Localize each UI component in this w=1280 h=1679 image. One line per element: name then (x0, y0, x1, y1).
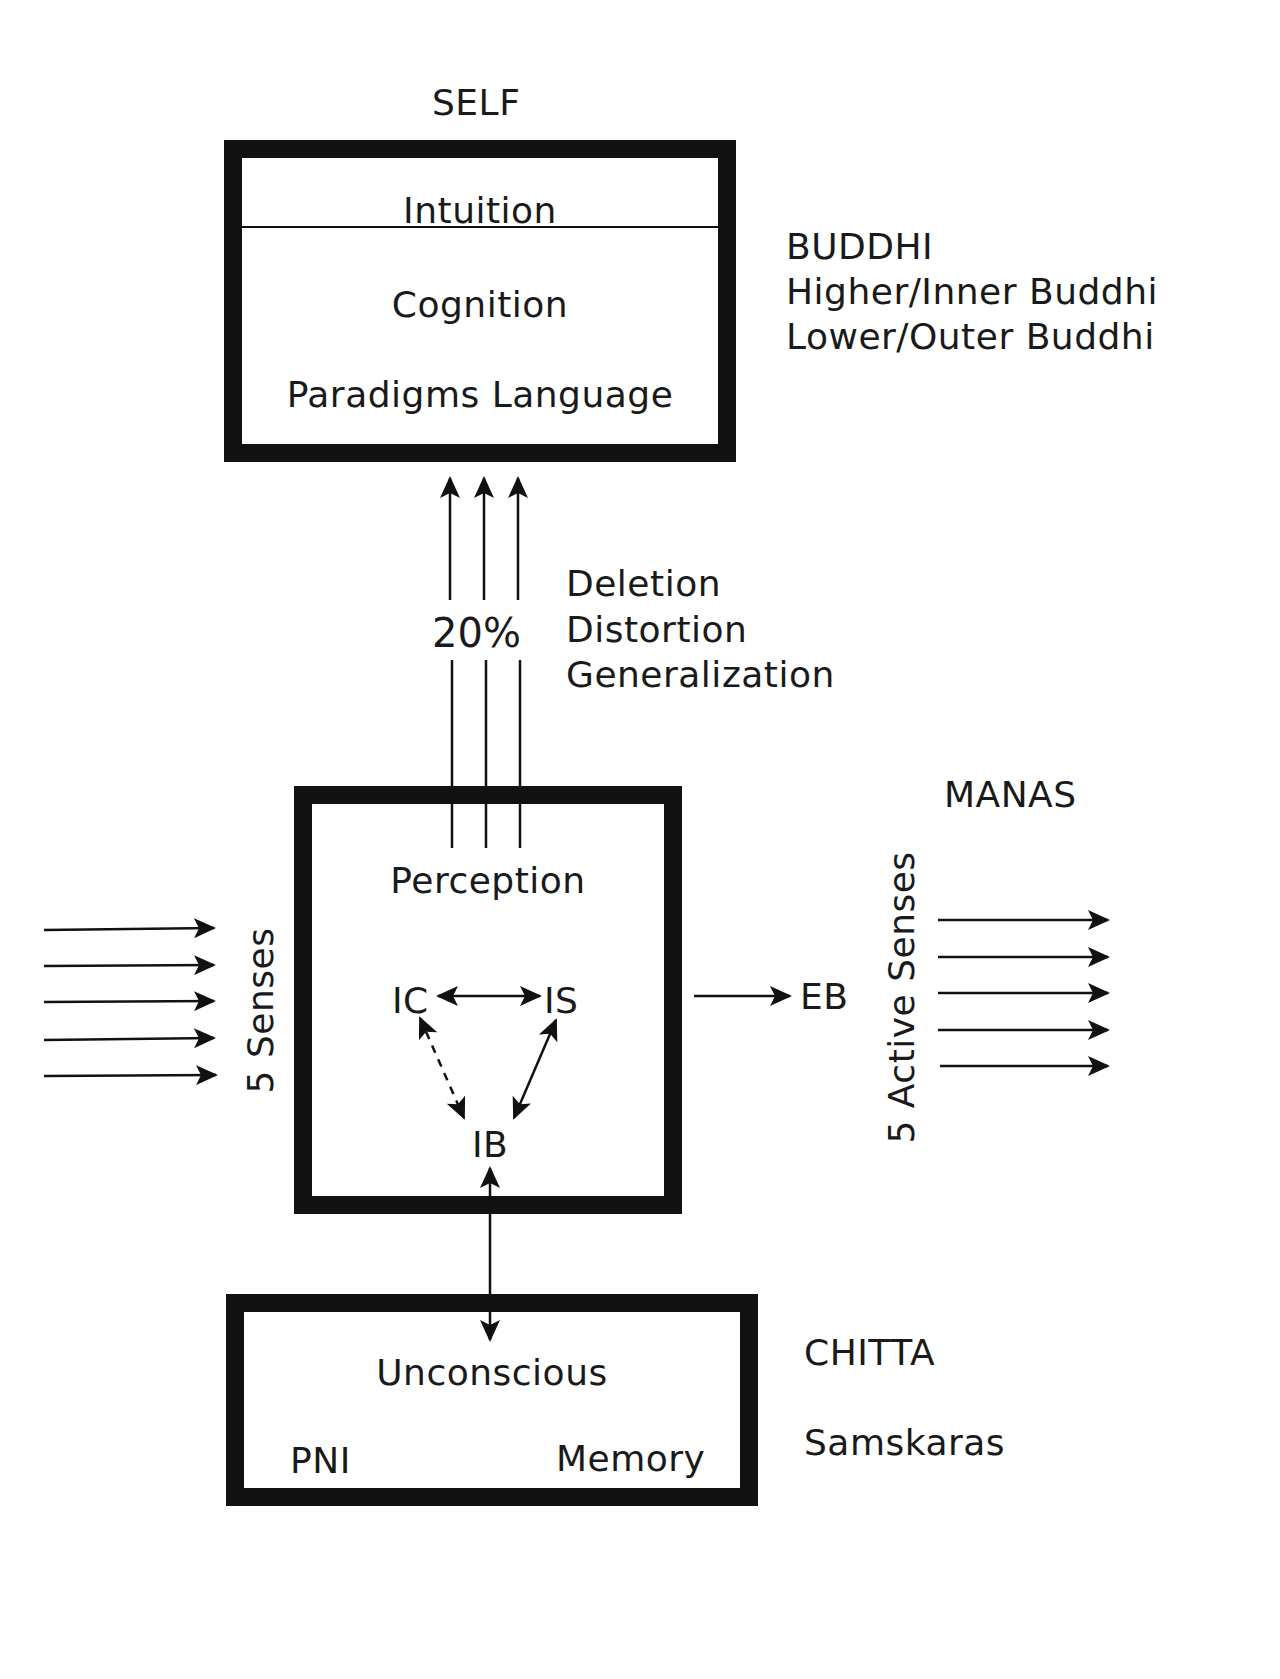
is-ib-arrow-icon (514, 1020, 556, 1118)
ic-ib-dashed-arrow-icon (420, 1018, 464, 1118)
filter-arrows-icon (450, 478, 520, 848)
active-sense-output-arrows-icon (938, 920, 1108, 1066)
sense-input-arrows-icon (44, 928, 216, 1076)
arrows-layer (0, 0, 1280, 1679)
